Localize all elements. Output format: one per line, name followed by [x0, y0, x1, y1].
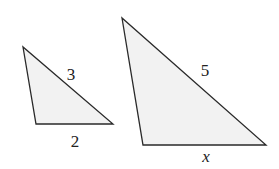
small-triangle: 3 2 — [23, 47, 113, 151]
large-triangle-shape — [122, 18, 266, 145]
large-base-label: x — [201, 147, 210, 166]
small-triangle-shape — [23, 47, 113, 124]
small-base-label: 2 — [71, 132, 80, 151]
small-hypotenuse-label: 3 — [67, 65, 76, 84]
large-hypotenuse-label: 5 — [201, 61, 210, 80]
similar-triangles-diagram: 3 2 5 x — [0, 0, 279, 169]
large-triangle: 5 x — [122, 18, 266, 166]
